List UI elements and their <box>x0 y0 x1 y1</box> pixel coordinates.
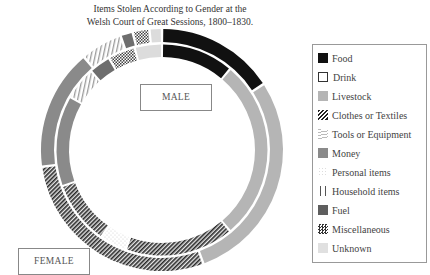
donut-rings <box>41 29 283 271</box>
female-segment-fuel <box>122 33 135 48</box>
legend-item-personal: Personal items <box>318 165 391 179</box>
misc-checker-swatch-icon <box>318 224 328 234</box>
clothes-hatch-swatch-icon <box>318 110 328 120</box>
legend-label: Household items <box>332 186 400 197</box>
male-ring-label: MALE <box>140 84 212 111</box>
household-vertical-swatch-icon <box>318 186 328 196</box>
drink-swatch-icon <box>318 72 328 82</box>
legend: Food Drink Livestock Clothes or Textiles… <box>312 44 427 263</box>
legend-label: Fuel <box>332 205 350 216</box>
legend-label: Food <box>332 53 353 64</box>
legend-item-fuel: Fuel <box>318 203 350 217</box>
legend-item-livestock: Livestock <box>318 89 371 103</box>
male-segment-unknown <box>136 45 161 60</box>
legend-label: Miscellaneous <box>332 224 390 235</box>
legend-item-food: Food <box>318 51 353 65</box>
legend-label: Clothes or Textiles <box>332 110 407 121</box>
legend-item-misc: Miscellaneous <box>318 222 390 236</box>
female-segment-miscellaneous <box>134 30 150 45</box>
legend-item-drink: Drink <box>318 70 356 84</box>
legend-label: Livestock <box>332 91 371 102</box>
fuel-swatch-icon <box>318 205 328 215</box>
personal-dotted-swatch-icon <box>318 167 328 177</box>
legend-item-money: Money <box>318 146 360 160</box>
legend-label: Drink <box>333 72 356 83</box>
tools-lines-swatch-icon <box>318 129 328 139</box>
legend-label: Unknown <box>332 243 371 254</box>
female-segment-unknown <box>151 29 161 42</box>
legend-label: Money <box>332 148 360 159</box>
legend-item-unknown: Unknown <box>318 241 371 255</box>
food-swatch-icon <box>318 53 328 63</box>
money-swatch-icon <box>318 148 328 158</box>
livestock-swatch-icon <box>318 91 328 101</box>
legend-item-tools: Tools or Equipment <box>318 127 411 141</box>
legend-item-household: Household items <box>318 184 400 198</box>
legend-label: Personal items <box>332 167 391 178</box>
unknown-swatch-icon <box>318 243 328 253</box>
legend-item-clothes: Clothes or Textiles <box>318 108 407 122</box>
female-ring-label: FEMALE <box>18 248 90 275</box>
legend-label: Tools or Equipment <box>332 129 411 140</box>
